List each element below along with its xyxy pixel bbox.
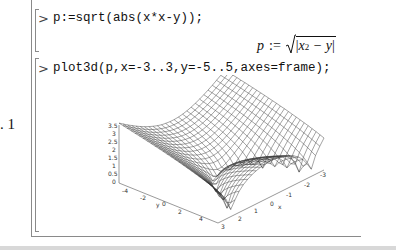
- equation-label: . 1: [0, 116, 15, 133]
- svg-text:1: 1: [254, 207, 258, 214]
- z-axis: 3.5 3 2.5 2 1.5 1 0.5 0: [108, 122, 119, 185]
- surface-mesh: [119, 75, 324, 209]
- svg-text:y: y: [156, 201, 160, 209]
- group2-bracket[interactable]: [35, 58, 36, 232]
- svg-text:3.5: 3.5: [108, 122, 118, 129]
- svg-text:0.5: 0.5: [108, 170, 118, 177]
- svg-text:-4: -4: [122, 187, 128, 194]
- math-assign: :=: [269, 38, 281, 54]
- svg-text:x: x: [278, 203, 282, 210]
- section-bracket-bottom: [31, 236, 361, 237]
- radicand: |x2 − y|: [296, 36, 336, 54]
- x-axis: 3 2 1 0 x -1 -2 -3: [218, 170, 326, 230]
- svg-text:0: 0: [270, 200, 274, 207]
- group2-bracket-bottom: [35, 231, 39, 232]
- svg-text:3: 3: [112, 130, 116, 137]
- prompt-symbol: >: [38, 61, 49, 76]
- svg-text:1: 1: [112, 162, 116, 169]
- svg-text:-2: -2: [140, 194, 146, 201]
- svg-text:4: 4: [199, 215, 203, 222]
- svg-text:3: 3: [221, 223, 225, 230]
- prompt-symbol: >: [38, 11, 49, 26]
- input-line-1[interactable]: > p:=sqrt(abs(x*x-y));: [38, 9, 203, 27]
- input-command[interactable]: p:=sqrt(abs(x*x-y));: [53, 11, 203, 25]
- group1-bracket[interactable]: [35, 9, 36, 52]
- svg-text:-1: -1: [286, 191, 292, 198]
- section-bracket: [31, 0, 32, 237]
- input-command[interactable]: plot3d(p,x=-3..3,y=-5..5,axes=frame);: [53, 61, 331, 75]
- y-axis: -4 -2 y 0 2 4: [119, 183, 218, 223]
- svg-text:1.5: 1.5: [108, 154, 118, 161]
- svg-text:-2: -2: [304, 181, 310, 188]
- group1-bracket-bottom: [35, 51, 39, 52]
- svg-text:0: 0: [112, 178, 116, 185]
- window-bottom-edge: [0, 246, 396, 250]
- svg-text:2: 2: [238, 215, 242, 222]
- svg-text:2: 2: [112, 146, 116, 153]
- svg-text:2.5: 2.5: [108, 138, 118, 145]
- math-lhs: p: [257, 38, 264, 54]
- svg-text:-3: -3: [320, 171, 326, 178]
- svg-text:0: 0: [162, 200, 166, 207]
- sqrt-icon: [286, 34, 296, 54]
- svg-text:2: 2: [178, 208, 182, 215]
- surface-wireframe: [119, 75, 324, 209]
- plot3d-surface[interactable]: 3.5 3 2.5 2 1.5 1 0.5 0 -4 -2 y 0 2 4 3 …: [100, 75, 350, 235]
- output-math-1: p := |x2 − y|: [257, 34, 336, 54]
